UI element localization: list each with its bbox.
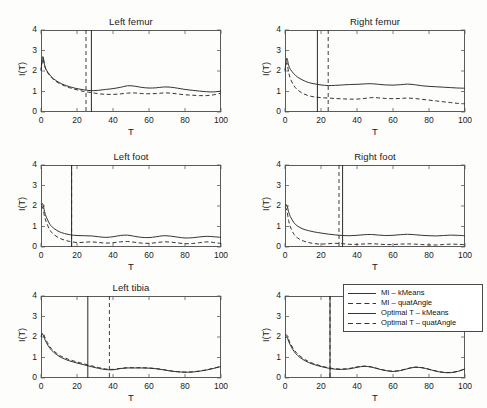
x-tick-label: 80 [170, 250, 200, 260]
x-tick-label: 60 [134, 115, 164, 125]
plot-area [41, 165, 221, 247]
y-tick-label: 4 [263, 159, 281, 169]
x-axis-label: T [111, 392, 151, 403]
legend-item: MI – kMeans [347, 288, 478, 298]
x-tick-label: 60 [134, 250, 164, 260]
plot-area [41, 296, 221, 378]
x-tick-label: 100 [206, 250, 236, 260]
legend-line-sample [347, 319, 377, 328]
x-tick-label: 0 [26, 115, 56, 125]
x-axis-label: T [111, 261, 151, 272]
y-tick-label: 4 [19, 290, 37, 300]
subplot-left-tibia: Left tibia [41, 296, 221, 378]
series-mi-kmeans [285, 205, 465, 236]
series-mi-quatangle [41, 333, 221, 372]
legend-item: MI – quatAngle [347, 298, 478, 308]
x-tick-label: 40 [342, 250, 372, 260]
x-tick-label: 40 [98, 381, 128, 391]
x-tick-label: 80 [414, 250, 444, 260]
series-mi-kmeans [41, 204, 221, 238]
series-mi-quatangle [41, 206, 221, 244]
plot-area [41, 30, 221, 112]
y-axis-label: I(T) [17, 176, 27, 232]
subplot-left-foot: Left foot [41, 165, 221, 247]
subplot-right-foot: Right foot [285, 165, 465, 247]
x-tick-label: 40 [342, 381, 372, 391]
x-axis-label: T [111, 126, 151, 137]
y-tick-label: 4 [263, 24, 281, 34]
series-mi-kmeans [285, 337, 465, 373]
x-tick-label: 60 [378, 115, 408, 125]
x-tick-label: 60 [378, 250, 408, 260]
x-tick-label: 40 [98, 250, 128, 260]
x-axis-label: T [355, 126, 395, 137]
x-tick-label: 20 [62, 250, 92, 260]
x-tick-label: 20 [306, 250, 336, 260]
x-tick-label: 0 [270, 381, 300, 391]
x-tick-label: 40 [342, 115, 372, 125]
x-tick-label: 80 [170, 381, 200, 391]
legend-item: Optimal T – quatAngle [347, 318, 478, 328]
y-axis-label: I(T) [261, 307, 271, 363]
legend-label: MI – quatAngle [381, 298, 432, 308]
plot-area [285, 165, 465, 247]
x-tick-label: 60 [378, 381, 408, 391]
x-tick-label: 20 [306, 115, 336, 125]
legend-label: Optimal T – kMeans [381, 308, 449, 318]
series-mi-kmeans [41, 57, 221, 92]
x-tick-label: 100 [206, 115, 236, 125]
x-tick-label: 0 [26, 381, 56, 391]
series-mi-quatangle [285, 335, 465, 373]
x-tick-label: 60 [134, 381, 164, 391]
x-tick-label: 80 [414, 381, 444, 391]
x-tick-label: 20 [62, 381, 92, 391]
series-mi-kmeans [285, 58, 465, 88]
plot-area [285, 30, 465, 112]
x-axis-label: T [355, 261, 395, 272]
legend-line-sample [347, 309, 377, 318]
x-tick-label: 100 [450, 250, 480, 260]
x-tick-label: 100 [450, 381, 480, 391]
subplot-title: Right femur [285, 16, 465, 27]
figure-canvas: Left femur01234020406080100I(T)TRight fe… [0, 0, 487, 408]
x-tick-label: 20 [62, 115, 92, 125]
x-tick-label: 40 [98, 115, 128, 125]
legend-label: MI – kMeans [381, 288, 424, 298]
subplot-title: Left foot [41, 151, 221, 162]
y-axis-label: I(T) [261, 41, 271, 97]
x-tick-label: 100 [206, 381, 236, 391]
series-mi-kmeans [41, 334, 221, 372]
y-axis-label: I(T) [17, 307, 27, 363]
x-tick-label: 0 [270, 250, 300, 260]
y-axis-label: I(T) [17, 41, 27, 97]
subplot-title: Right foot [285, 151, 465, 162]
y-tick-label: 4 [19, 24, 37, 34]
x-tick-label: 80 [414, 115, 444, 125]
legend-line-sample [347, 289, 377, 298]
y-tick-label: 4 [19, 159, 37, 169]
x-tick-label: 0 [26, 250, 56, 260]
legend-line-sample [347, 299, 377, 308]
y-axis-label: I(T) [261, 176, 271, 232]
subplot-title: Left femur [41, 16, 221, 27]
series-mi-quatangle [285, 207, 465, 245]
subplot-right-femur: Right femur [285, 30, 465, 112]
subplot-left-femur: Left femur [41, 30, 221, 112]
legend-item: Optimal T – kMeans [347, 308, 478, 318]
y-tick-label: 4 [263, 290, 281, 300]
x-tick-label: 80 [170, 115, 200, 125]
legend: MI – kMeansMI – quatAngleOptimal T – kMe… [343, 284, 483, 332]
subplot-title: Left tibia [41, 282, 221, 293]
x-axis-label: T [355, 392, 395, 403]
legend-label: Optimal T – quatAngle [381, 318, 456, 328]
x-tick-label: 100 [450, 115, 480, 125]
x-tick-label: 20 [306, 381, 336, 391]
x-tick-label: 0 [270, 115, 300, 125]
